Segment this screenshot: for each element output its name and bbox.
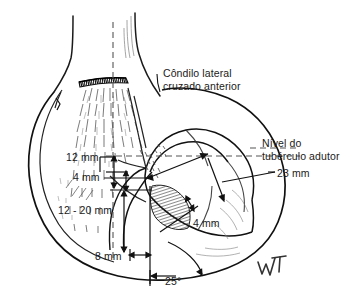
label-measure-8mm: 8 mm <box>95 250 122 263</box>
label-measure-25deg: 25° <box>165 275 181 288</box>
anatomical-diagram: Côndilo lateralcruzado anterior Nível do… <box>0 0 356 303</box>
label-measure-12-20mm: 12 - 20 mm <box>58 204 112 217</box>
label-condyle-line1: Côndilo lateral <box>163 67 232 79</box>
label-level-line1: Nível do <box>262 137 301 149</box>
label-measure-4mm-right: 4 mm <box>193 217 220 230</box>
label-adductor-tubercle-level: Nível dotubérculo adutor <box>262 137 339 163</box>
label-measure-4mm-left: 4 mm <box>73 171 100 184</box>
label-condyle-line2: cruzado anterior <box>163 80 240 92</box>
label-lateral-condyle: Côndilo lateralcruzado anterior <box>163 67 240 93</box>
label-level-line2: tubérculo adutor <box>262 150 339 162</box>
label-measure-12mm: 12 mm <box>66 151 99 164</box>
label-measure-23mm: 23 mm <box>277 167 310 180</box>
